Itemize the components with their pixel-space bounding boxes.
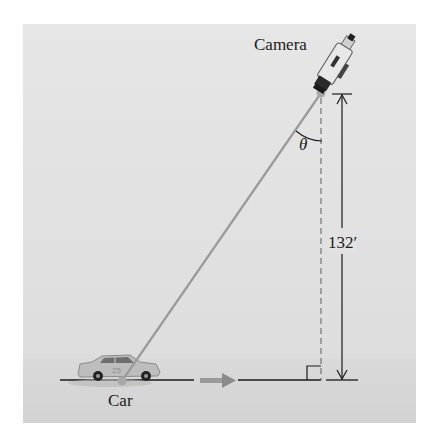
race-car-icon: 25 — [78, 355, 160, 381]
car-shadow — [68, 379, 152, 387]
right-angle-icon — [307, 366, 321, 380]
height-label: 132′ — [328, 232, 357, 253]
angle-label: θ — [299, 136, 307, 153]
line-of-sight — [122, 93, 321, 381]
svg-text:25: 25 — [112, 366, 121, 375]
car-point — [118, 377, 127, 386]
camcorder-icon — [310, 30, 364, 98]
car-label: Car — [108, 392, 133, 409]
camera-label: Camera — [254, 36, 307, 53]
diagram-canvas: 25 — [0, 0, 432, 429]
right-arrow-icon — [200, 373, 236, 388]
